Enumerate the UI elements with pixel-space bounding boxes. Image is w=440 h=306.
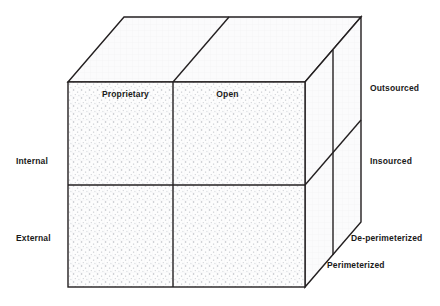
label-proprietary: Proprietary [78,90,173,99]
cube-diagram: Proprietary Open Internal External Outso… [0,0,440,306]
label-internal: Internal [16,157,48,166]
label-external: External [16,234,51,243]
label-perimeterized: Perimeterized [327,261,385,270]
label-open: Open [180,90,275,99]
front-face [68,82,305,287]
label-insourced: Insourced [370,157,412,166]
label-outsourced: Outsourced [370,84,419,93]
label-de-perimeterized: De-perimeterized [351,234,422,243]
